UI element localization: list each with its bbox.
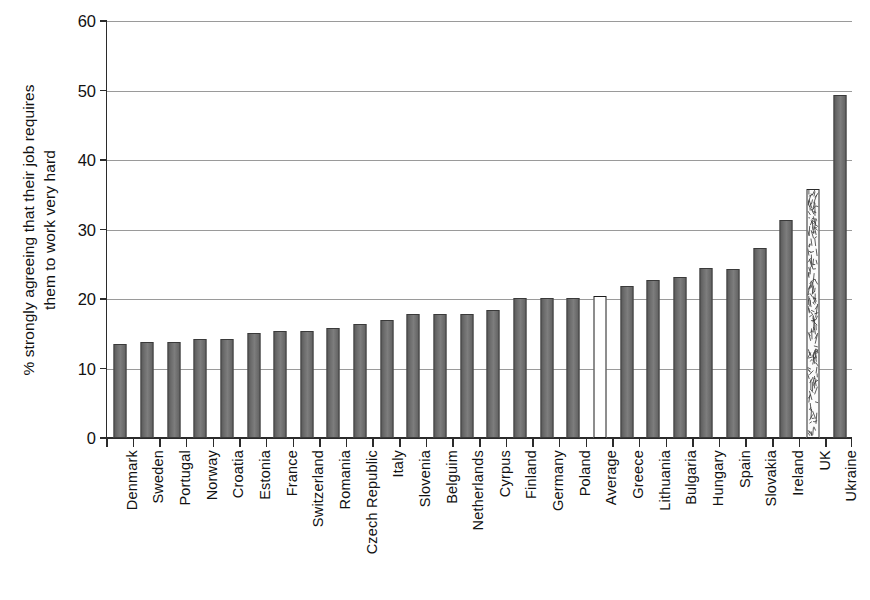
bar-slot	[320, 21, 347, 438]
bar-slot	[746, 21, 773, 438]
bar-estonia	[247, 333, 260, 438]
bar-germany	[540, 298, 553, 438]
bar-slot	[107, 21, 134, 438]
bar-slot	[400, 21, 427, 438]
bar-slot	[720, 21, 747, 438]
x-axis-tick	[213, 438, 215, 447]
x-axis-tick	[372, 438, 374, 447]
x-axis-label-croatia: Croatia	[231, 450, 246, 600]
x-axis-label-uk: UK	[818, 450, 833, 600]
bar-czech-republic	[354, 324, 367, 438]
y-axis-tick-label: 60	[52, 12, 96, 31]
bar-slot	[214, 21, 241, 438]
x-axis-label-slovakia: Slovakia	[764, 450, 779, 600]
x-axis-label-portugal: Portugal	[178, 450, 193, 600]
x-axis-label-ireland: Ireland	[791, 450, 806, 600]
bar-slot	[587, 21, 614, 438]
x-axis-tick	[559, 438, 561, 447]
bar-slot	[267, 21, 294, 438]
bar-poland	[567, 298, 580, 438]
bar-finland	[513, 298, 526, 438]
x-axis-label-ukraine: Ukraine	[844, 450, 859, 600]
x-axis-label-france: France	[285, 450, 300, 600]
x-axis-label-poland: Poland	[578, 450, 593, 600]
bar-croatia	[220, 339, 233, 438]
x-axis-tick	[452, 438, 454, 447]
bar-denmark	[114, 344, 127, 438]
bar-bulgaria	[673, 277, 686, 438]
bar-slot	[427, 21, 454, 438]
x-axis-label-netherlands: Netherlands	[471, 450, 486, 600]
bar-slovenia	[407, 314, 420, 438]
x-axis-tick	[346, 438, 348, 447]
speckle-pattern-icon	[808, 190, 819, 437]
bar-portugal	[167, 342, 180, 438]
bar-netherlands	[460, 314, 473, 438]
bar-greece	[620, 286, 633, 438]
x-axis-tick	[506, 438, 508, 447]
x-axis-label-slovenia: Slovenia	[418, 450, 433, 600]
y-axis-tick	[100, 90, 107, 92]
x-axis-tick	[692, 438, 694, 447]
plot-area	[106, 21, 852, 438]
x-axis-tick	[799, 438, 801, 447]
x-axis-tick	[745, 438, 747, 447]
bar-slot	[560, 21, 587, 438]
x-axis-tick	[825, 438, 827, 447]
bar-slot	[533, 21, 560, 438]
bar-series	[107, 21, 852, 438]
x-axis-label-czech-republic: Czech Republic	[365, 450, 380, 600]
y-axis-tick	[100, 20, 107, 22]
x-axis-tick	[133, 438, 135, 447]
x-axis-label-switzerland: Switzerland	[311, 450, 326, 600]
bar-switzerland	[300, 331, 313, 438]
bar-lithuania	[647, 280, 660, 438]
y-axis-labels: 0102030405060	[44, 21, 96, 438]
x-axis-tick	[479, 438, 481, 447]
x-axis-tick	[159, 438, 161, 447]
y-axis-tick	[100, 298, 107, 300]
bar-slot	[480, 21, 507, 438]
bar-average	[593, 296, 606, 438]
x-axis-tick	[532, 438, 534, 447]
x-axis-label-romania: Romania	[338, 450, 353, 600]
x-axis-label-italy: Italy	[391, 450, 406, 600]
y-axis-tick	[100, 229, 107, 231]
x-axis-tick	[851, 438, 853, 447]
bar-slot	[800, 21, 827, 438]
x-axis-tick	[186, 438, 188, 447]
bar-ukraine	[833, 95, 846, 438]
x-axis-tick	[772, 438, 774, 447]
y-axis-tick-label: 50	[52, 81, 96, 100]
bar-chart: % strongly agreeing that their job requi…	[0, 0, 870, 600]
y-axis-tick-label: 20	[52, 290, 96, 309]
x-axis-label-sweden: Sweden	[151, 450, 166, 600]
x-axis-label-spain: Spain	[738, 450, 753, 600]
x-axis-labels: DenmarkSwedenPortugalNorwayCroatiaEstoni…	[106, 450, 852, 598]
x-axis-label-hungary: Hungary	[711, 450, 726, 600]
x-axis-tick	[239, 438, 241, 447]
bar-uk	[807, 189, 820, 438]
bar-belguim	[434, 314, 447, 438]
x-axis-tick	[266, 438, 268, 447]
y-axis-tick	[100, 159, 107, 161]
x-axis-label-norway: Norway	[205, 450, 220, 600]
y-axis-tick-label: 0	[52, 429, 96, 448]
x-axis-label-estonia: Estonia	[258, 450, 273, 600]
bar-slot	[187, 21, 214, 438]
bar-ireland	[780, 220, 793, 438]
x-axis-tick	[106, 438, 108, 447]
bar-slot	[373, 21, 400, 438]
bar-slot	[773, 21, 800, 438]
bar-italy	[380, 320, 393, 438]
bar-slovakia	[753, 248, 766, 438]
bar-slot	[453, 21, 480, 438]
x-axis-label-average: Average	[604, 450, 619, 600]
bar-slot	[826, 21, 853, 438]
bar-slot	[347, 21, 374, 438]
bar-norway	[194, 339, 207, 438]
bar-slot	[507, 21, 534, 438]
x-axis-tick	[666, 438, 668, 447]
x-axis-label-bulgaria: Bulgaria	[684, 450, 699, 600]
x-axis-ticks	[106, 438, 852, 447]
